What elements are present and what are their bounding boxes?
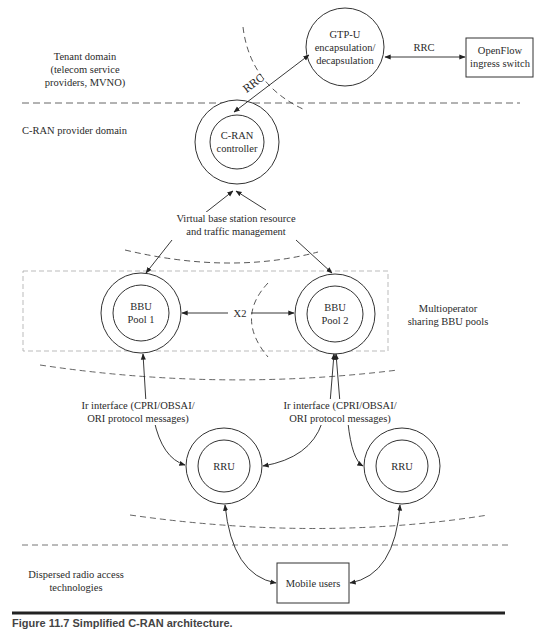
bbu1-line2: Pool 1	[127, 313, 154, 326]
dispersed-line2: technologies	[20, 581, 132, 594]
openflow-label: OpenFlow ingress switch	[470, 44, 530, 70]
multioperator-label: Multioperator sharing BBU pools	[398, 302, 498, 328]
ir-link-bbu2-a	[330, 354, 334, 403]
rru-boundary-arc	[130, 515, 488, 529]
fronthaul-boundary-arc	[40, 365, 398, 380]
bbu-pool-1-label: BBU Pool 1	[127, 300, 154, 326]
ir-left-line1: Ir interface (CPRI/OBSAI/	[81, 399, 194, 412]
multioperator-line1: Multioperator	[398, 302, 498, 315]
tenant-domain-line3: providers, MVNO)	[30, 76, 140, 89]
multioperator-line2: sharing BBU pools	[398, 315, 498, 328]
rrc-label-controller-gtpu: RRC	[240, 71, 266, 95]
ir-link-right-rru2	[348, 423, 363, 466]
vbs-label: Virtual base station resource and traffi…	[176, 212, 295, 238]
vbs-link-to-bbu2	[296, 240, 332, 273]
ir-link-bbu2-b	[336, 354, 340, 403]
vbs-line2: and traffic management	[176, 225, 295, 238]
bbu2-line1: BBU	[321, 301, 348, 314]
bbu-pool-2-label: BBU Pool 2	[321, 301, 348, 327]
bbu2-line2: Pool 2	[321, 314, 348, 327]
tenant-domain-line1: Tenant domain	[30, 50, 140, 63]
gtpu-label: GTP-U encapsulation/ decapsulation	[315, 28, 376, 67]
ir-right-line2: ORI protocol messages)	[283, 412, 396, 425]
radio-link-rru1-users	[225, 505, 276, 583]
gtpu-line1: GTP-U	[315, 28, 376, 41]
gtpu-line3: decapsulation	[315, 54, 376, 67]
dispersed-line1: Dispersed radio access	[20, 568, 132, 581]
vbs-link-to-controller-2	[236, 191, 266, 210]
dispersed-radio-label: Dispersed radio access technologies	[20, 568, 132, 594]
openflow-line2: ingress switch	[470, 57, 530, 70]
rrc-label-gtpu-openflow: RRC	[413, 41, 434, 54]
ir-left-line2: ORI protocol messages)	[81, 412, 194, 425]
x2-label: X2	[234, 307, 247, 320]
x2-boundary-arc	[252, 283, 269, 357]
ir-right-line1: Ir interface (CPRI/OBSAI/	[283, 399, 396, 412]
ir-interface-right-label: Ir interface (CPRI/OBSAI/ ORI protocol m…	[283, 399, 396, 425]
cran-controller-line1: C-RAN	[217, 129, 258, 142]
tenant-domain-label: Tenant domain (telecom service providers…	[30, 50, 140, 89]
figure-caption: Figure 11.7 Simplified C-RAN architectur…	[12, 617, 233, 629]
vbs-link-to-controller-1	[205, 191, 233, 213]
ir-interface-left-label: Ir interface (CPRI/OBSAI/ ORI protocol m…	[81, 399, 194, 425]
ir-link-left-rru1	[154, 420, 185, 465]
tenant-domain-line2: (telecom service	[30, 63, 140, 76]
ir-link-right-rru1	[263, 423, 322, 466]
bbu1-line1: BBU	[127, 300, 154, 313]
cran-controller-line2: controller	[217, 142, 258, 155]
gtpu-line2: encapsulation/	[315, 41, 376, 54]
vbs-line1: Virtual base station resource	[176, 212, 295, 225]
openflow-line1: OpenFlow	[470, 44, 530, 57]
cran-controller-label: C-RAN controller	[217, 129, 258, 155]
rru-1-label: RRU	[213, 460, 235, 473]
radio-link-rru2-users	[350, 505, 400, 583]
rru-2-label: RRU	[391, 460, 413, 473]
cran-provider-domain-label: C-RAN provider domain	[22, 124, 127, 137]
vbs-link-to-bbu1	[146, 240, 172, 273]
ir-link-bbu1	[143, 354, 146, 403]
mobile-users-label: Mobile users	[286, 577, 341, 590]
controller-boundary-arc	[125, 250, 318, 263]
